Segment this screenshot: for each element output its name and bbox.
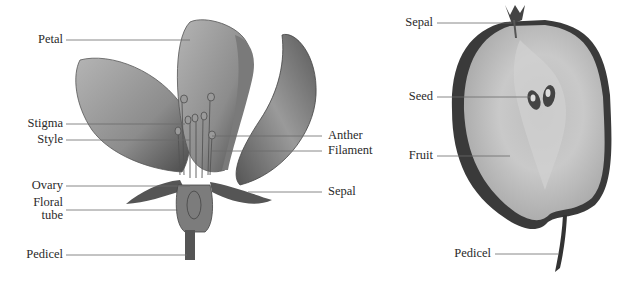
left-petal [76, 58, 191, 172]
label-filament: Filament [328, 144, 372, 157]
floral-tube [176, 185, 212, 232]
label-style: Style [37, 133, 63, 146]
label-floral-tube-line2: tube [41, 209, 63, 222]
label-fruit: Fruit [409, 149, 433, 162]
pear-pedicel [555, 215, 567, 272]
label-flower-pedicel: Pedicel [26, 248, 63, 261]
label-petal: Petal [38, 33, 63, 46]
right-sepal [210, 182, 272, 204]
label-fruit-sepal: Sepal [405, 16, 433, 29]
flower-pedicel [185, 230, 195, 260]
illustration [0, 0, 643, 285]
label-ovary: Ovary [32, 179, 63, 192]
label-stigma: Stigma [28, 117, 63, 130]
label-seed: Seed [409, 90, 433, 103]
pear-fruit-illustration [452, 5, 612, 272]
label-fruit-pedicel: Pedicel [454, 247, 491, 260]
label-flower-sepal: Sepal [328, 185, 356, 198]
pear-flower-and-fruit-diagram: Petal Stigma Style Ovary Floral tube Ped… [0, 0, 643, 285]
label-anther: Anther [328, 129, 363, 142]
